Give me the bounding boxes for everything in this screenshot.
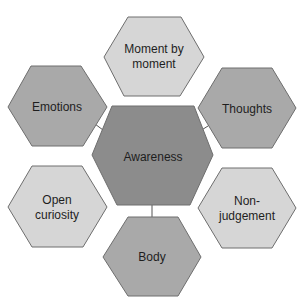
hex-moment-by-moment [104, 17, 204, 96]
hex-awareness [92, 106, 213, 205]
hex-emotions [8, 66, 107, 146]
hex-non-judgement [198, 168, 296, 248]
hex-open-curiosity [8, 166, 107, 247]
hex-body [103, 217, 201, 296]
hex-thoughts [198, 68, 296, 148]
hexagon-diagram [0, 0, 304, 297]
